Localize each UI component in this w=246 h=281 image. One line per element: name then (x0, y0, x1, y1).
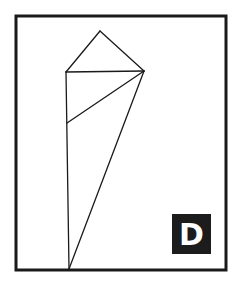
segment-apex_top-right_top (100, 31, 144, 71)
figure-lines (66, 31, 144, 269)
segment-apex_top-left_top (66, 31, 100, 72)
segment-right_top-bottom (69, 71, 144, 269)
figure-label: D (179, 220, 204, 250)
segment-left_top-right_top (66, 71, 144, 72)
segment-right_top-left_mid (67, 71, 144, 123)
figure-label-badge: D (172, 214, 211, 254)
segment-left_top-bottom (66, 72, 69, 269)
